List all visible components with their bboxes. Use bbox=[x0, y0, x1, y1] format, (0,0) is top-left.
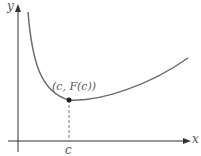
point-label: (c, F(c)) bbox=[52, 80, 96, 93]
y-axis-label: y bbox=[7, 0, 14, 13]
x-axis-label: x bbox=[192, 132, 199, 146]
x-axis-arrow-icon bbox=[183, 138, 191, 144]
tick-label-c: c bbox=[65, 143, 72, 156]
y-axis-arrow-icon bbox=[15, 4, 21, 12]
graph bbox=[0, 0, 201, 156]
minimum-point bbox=[67, 98, 72, 103]
